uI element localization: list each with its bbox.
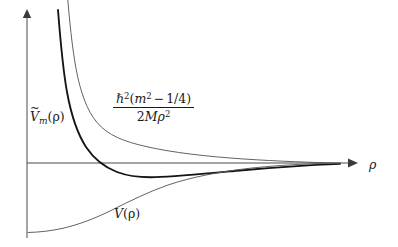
fraction-bar — [113, 107, 194, 108]
two-coefficient: 2 — [137, 109, 145, 124]
centrifugal-term-label: ℏ2(m2−1/4) 2Mρ2 — [113, 92, 194, 123]
v-argument: (ρ) — [48, 109, 65, 124]
one-quarter: 1/4 — [166, 91, 186, 106]
fraction-numerator: ℏ2(m2−1/4) — [113, 92, 194, 106]
v-tilde-glyph: ~V — [30, 110, 39, 123]
hbar-symbol: ℏ — [116, 91, 124, 106]
mass-symbol: M — [145, 109, 158, 124]
rho-symbol-denominator: ρ — [158, 109, 165, 124]
m-symbol: m — [134, 91, 146, 106]
bare-potential-label: V(ρ) — [114, 207, 140, 220]
v-letter: V — [114, 206, 123, 221]
tilde-accent-icon: ~ — [30, 103, 40, 115]
m-exponent: 2 — [146, 91, 151, 101]
v-argument-rho: (ρ) — [123, 206, 140, 221]
rho-exponent: 2 — [165, 109, 170, 119]
effective-potential-label: ~Vm(ρ) — [30, 110, 65, 126]
fraction: ℏ2(m2−1/4) 2Mρ2 — [113, 92, 194, 123]
paren-close: ) — [186, 91, 191, 106]
minus-sign: − — [152, 91, 166, 106]
v-subscript-m: m — [39, 116, 48, 126]
x-axis-label-rho: ρ — [369, 158, 376, 171]
fraction-denominator: 2Mρ2 — [113, 109, 194, 123]
